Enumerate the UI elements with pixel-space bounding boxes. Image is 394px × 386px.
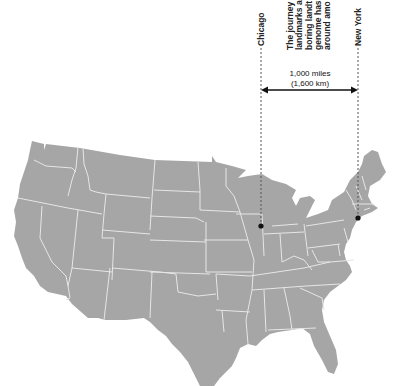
- journey-note: The journey landmarks a boring landt gen…: [286, 0, 332, 50]
- chicago-label: Chicago: [256, 12, 266, 46]
- newyork-dot-icon: [355, 215, 360, 220]
- distance-miles: 1,000 miles: [280, 69, 340, 79]
- arrow-head-left-icon: [261, 87, 268, 94]
- chicago-dot-icon: [258, 223, 263, 228]
- us-landmass: [14, 141, 386, 386]
- distance-km: (1,600 km): [280, 79, 340, 89]
- newyork-label: New York: [353, 8, 363, 46]
- us-map: [0, 0, 394, 386]
- arrow-head-right-icon: [351, 87, 358, 94]
- distance-label: 1,000 miles (1,600 km): [280, 69, 340, 88]
- note-line-5: around amo: [323, 0, 332, 50]
